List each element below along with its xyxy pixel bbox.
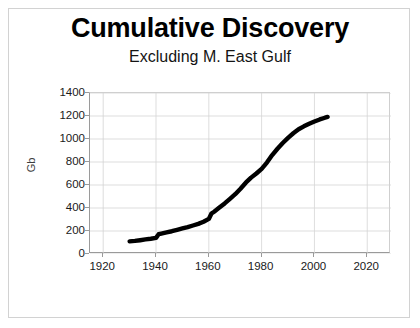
y-tick-label: 400 (45, 201, 85, 213)
y-tick-mark (85, 115, 89, 116)
x-axis-tick-labels: 192019401960198020002020 (89, 260, 399, 278)
y-tick-label: 1000 (45, 132, 85, 144)
x-tick-label: 1920 (72, 260, 132, 272)
y-tick-mark (85, 92, 89, 93)
y-tick: 200 (42, 224, 85, 238)
y-tick-label: 200 (45, 224, 85, 236)
x-tick-label: 1960 (178, 260, 238, 272)
y-axis-tick-labels: 1400120010008006004002000 (42, 92, 85, 253)
x-tick-mark (366, 253, 367, 257)
y-tick: 1000 (42, 132, 85, 146)
y-tick: 600 (42, 178, 85, 192)
y-tick-mark (85, 207, 89, 208)
chart-subtitle: Excluding M. East Gulf (0, 48, 420, 66)
x-tick-mark (261, 253, 262, 257)
series-cumulative-discovery (90, 93, 391, 254)
x-tick-mark (313, 253, 314, 257)
chart-figure: Cumulative Discovery Excluding M. East G… (0, 0, 420, 328)
chart-title: Cumulative Discovery (0, 14, 420, 42)
x-tick-mark (208, 253, 209, 257)
y-tick-mark (85, 138, 89, 139)
x-tick-label: 1980 (231, 260, 291, 272)
y-tick-mark (85, 253, 89, 254)
x-tick-mark (102, 253, 103, 257)
data-line (130, 117, 328, 241)
x-tick-label: 2000 (283, 260, 343, 272)
y-tick-label: 1400 (45, 86, 85, 98)
y-tick: 1400 (42, 86, 85, 100)
y-tick-label: 800 (45, 155, 85, 167)
plot-wrapper (89, 92, 390, 253)
plot-area (89, 92, 390, 253)
x-tick-mark (155, 253, 156, 257)
x-tick-label: 1940 (125, 260, 185, 272)
y-tick: 400 (42, 201, 85, 215)
x-tick-label: 2020 (336, 260, 396, 272)
y-tick-label: 1200 (45, 109, 85, 121)
y-tick-mark (85, 161, 89, 162)
y-tick-mark (85, 184, 89, 185)
y-tick-label: 600 (45, 178, 85, 190)
y-tick: 800 (42, 155, 85, 169)
y-tick-label: 0 (45, 247, 85, 259)
y-tick-mark (85, 230, 89, 231)
y-tick: 0 (42, 247, 85, 261)
y-tick: 1200 (42, 109, 85, 123)
